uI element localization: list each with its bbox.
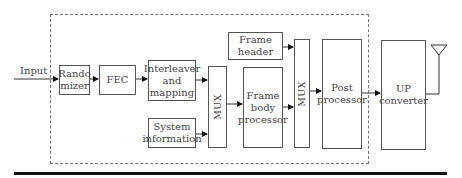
- input-label: Input: [20, 65, 47, 76]
- frame-header-block: Frame header: [228, 32, 283, 60]
- post-processor-block: Post processor: [322, 39, 362, 149]
- mux-2-label: MUX: [296, 81, 308, 106]
- mux-1-block: MUX: [208, 66, 227, 148]
- bottom-rule: [14, 172, 447, 175]
- fec-block: FEC: [99, 65, 136, 95]
- up-converter-block: UP converter: [381, 40, 426, 150]
- system-information-block: System information: [148, 118, 196, 148]
- frame-body-processor-block: Frame body processor: [243, 67, 283, 148]
- randomizer-block: Rando mizer: [59, 65, 90, 95]
- antenna-icon: [431, 45, 447, 55]
- mux-2-block: MUX: [294, 39, 310, 148]
- interleaver-mapping-block: Interleaver and mapping: [148, 60, 196, 101]
- mux-1-label: MUX: [212, 94, 224, 119]
